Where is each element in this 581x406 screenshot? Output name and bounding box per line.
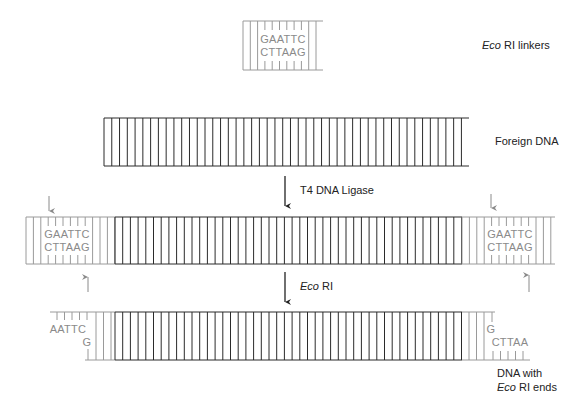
result-label-line1: DNA with — [497, 367, 542, 379]
ligated-dna — [26, 217, 555, 264]
ecori-linker-diagram: GAATTC CTTAAG Eco RI linkers Foreign DNA… — [0, 0, 581, 406]
result-label-line2: Eco RI ends — [497, 381, 557, 393]
left-sticky-bottom: G — [83, 336, 92, 348]
ecori-label: Eco RI — [300, 280, 333, 292]
left-sticky-top: AATTC — [50, 323, 87, 335]
foreign-dna-label: Foreign DNA — [495, 135, 559, 147]
linker-label: Eco RI linkers — [482, 39, 550, 51]
digested-dna — [50, 312, 530, 360]
right-linker-seq-top: GAATTC — [487, 228, 533, 240]
right-sticky-top: G — [487, 323, 496, 335]
foreign-dna — [104, 118, 469, 166]
ligase-label: T4 DNA Ligase — [300, 184, 374, 196]
right-linker-seq-bottom: CTTAAG — [487, 241, 533, 253]
left-linker-seq-top: GAATTC — [44, 228, 90, 240]
right-sticky-bottom: CTTAA — [492, 336, 529, 348]
left-linker-seq-bottom: CTTAAG — [44, 241, 90, 253]
linker-seq-bottom: CTTAAG — [260, 46, 306, 58]
linker-seq-top: GAATTC — [260, 33, 306, 45]
